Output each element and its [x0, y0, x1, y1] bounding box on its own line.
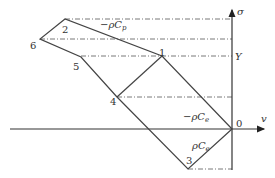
- slope-label-elastic-neg: −ρCe: [183, 111, 209, 124]
- point-label-6: 6: [30, 40, 36, 51]
- point-label-2: 2: [62, 24, 68, 35]
- point-label-3: 3: [186, 155, 192, 166]
- point-label-4: 4: [110, 96, 116, 107]
- sigma-axis-label: σ: [237, 6, 245, 17]
- origin-label: 0: [236, 118, 242, 129]
- v-axis-label: v: [261, 113, 267, 124]
- y-tick-label: Y: [235, 51, 243, 62]
- wave-diagram: 2 6 5 4 1 3 0 σ v Y −ρCp −ρCe ρCe: [0, 0, 275, 178]
- slope-label-plastic: −ρCp: [100, 19, 127, 32]
- point-label-5: 5: [73, 61, 79, 72]
- segment-4-1: [117, 56, 162, 97]
- slope-label-elastic-pos: ρCe: [191, 140, 210, 153]
- point-label-1: 1: [159, 47, 165, 58]
